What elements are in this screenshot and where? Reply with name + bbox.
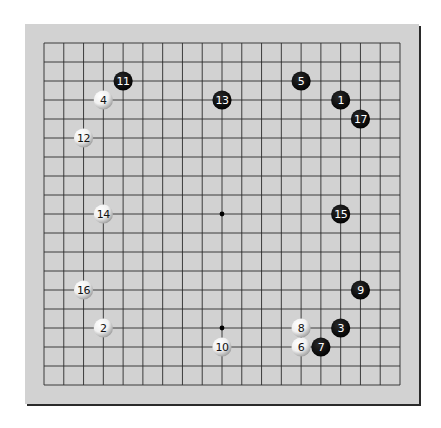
stone-white-move-12[interactable]: 12 bbox=[74, 128, 93, 147]
move-number: 13 bbox=[216, 94, 229, 107]
stone-black-move-11[interactable]: 11 bbox=[114, 71, 133, 90]
move-number: 16 bbox=[77, 284, 90, 297]
stone-white-move-6[interactable]: 6 bbox=[292, 337, 311, 356]
stone-black-move-5[interactable]: 5 bbox=[292, 71, 311, 90]
move-number: 14 bbox=[97, 208, 110, 221]
stone-white-move-16[interactable]: 16 bbox=[74, 280, 93, 299]
move-number: 8 bbox=[298, 322, 305, 335]
star-point bbox=[220, 212, 225, 217]
move-number: 1 bbox=[337, 94, 344, 107]
star-point bbox=[220, 326, 225, 331]
move-number: 5 bbox=[298, 75, 305, 88]
move-number: 10 bbox=[216, 341, 229, 354]
stone-black-move-1[interactable]: 1 bbox=[331, 90, 350, 109]
stone-white-move-4[interactable]: 4 bbox=[94, 90, 113, 109]
move-number: 15 bbox=[334, 208, 347, 221]
stone-black-move-15[interactable]: 15 bbox=[331, 204, 350, 223]
stone-black-move-17[interactable]: 17 bbox=[351, 109, 370, 128]
stone-white-move-10[interactable]: 10 bbox=[212, 337, 231, 356]
stone-black-move-9[interactable]: 9 bbox=[351, 280, 370, 299]
stone-white-move-14[interactable]: 14 bbox=[94, 204, 113, 223]
stone-white-move-2[interactable]: 2 bbox=[94, 318, 113, 337]
move-number: 2 bbox=[100, 322, 107, 335]
stone-black-move-7[interactable]: 7 bbox=[311, 337, 330, 356]
move-number: 7 bbox=[318, 341, 325, 354]
stone-black-move-13[interactable]: 13 bbox=[212, 90, 231, 109]
move-number: 6 bbox=[298, 341, 305, 354]
move-number: 4 bbox=[100, 94, 107, 107]
move-number: 11 bbox=[117, 75, 130, 88]
move-number: 3 bbox=[337, 322, 344, 335]
stone-white-move-8[interactable]: 8 bbox=[292, 318, 311, 337]
stone-black-move-3[interactable]: 3 bbox=[331, 318, 350, 337]
go-board[interactable]: 1234567891011121314151617 bbox=[0, 0, 441, 428]
move-number: 12 bbox=[77, 132, 90, 145]
move-number: 17 bbox=[354, 113, 367, 126]
move-number: 9 bbox=[357, 284, 364, 297]
